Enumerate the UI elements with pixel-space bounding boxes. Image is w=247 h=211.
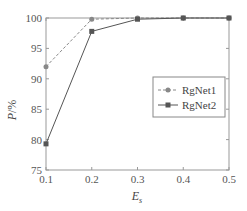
x-tick-label: 0.4 — [176, 173, 190, 185]
data-point — [89, 29, 94, 34]
data-point — [44, 141, 49, 146]
x-axis-label: Es — [131, 189, 142, 205]
data-point — [135, 17, 140, 22]
legend: RgNet1RgNet2 — [153, 77, 225, 117]
x-tick-label: 0.5 — [222, 173, 236, 185]
x-tick-label: 0.2 — [85, 173, 99, 185]
y-tick-label: 85 — [31, 103, 43, 115]
line-chart: 75808590951000.10.20.30.40.5 RgNet1RgNet… — [0, 0, 247, 211]
y-tick-label: 95 — [31, 42, 43, 54]
x-tick-label: 0.1 — [39, 173, 53, 185]
legend-label: RgNet2 — [182, 99, 216, 111]
data-point — [89, 17, 94, 22]
legend-box — [153, 77, 225, 117]
data-point — [181, 16, 186, 21]
data-point — [227, 16, 232, 21]
x-tick-label: 0.3 — [131, 173, 145, 185]
series-line-rgnet1 — [46, 18, 229, 67]
y-tick-label: 100 — [26, 12, 43, 24]
legend-label: RgNet1 — [182, 84, 216, 96]
data-point — [44, 64, 49, 69]
y-axis-label: P/% — [5, 100, 19, 122]
y-tick-label: 90 — [31, 73, 43, 85]
y-tick-label: 80 — [31, 134, 43, 146]
